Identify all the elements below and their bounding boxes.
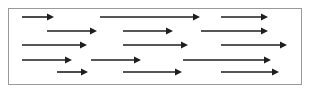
arrow-right-icon: [123, 42, 188, 49]
arrow-field: [0, 0, 312, 88]
arrow-right-icon: [221, 42, 287, 49]
arrow-right-icon: [201, 28, 268, 35]
arrow-right-icon: [91, 57, 141, 64]
arrow-right-icon: [221, 14, 268, 21]
arrow-right-icon: [221, 69, 279, 76]
arrow-right-icon: [22, 14, 54, 21]
arrow-right-icon: [123, 28, 173, 35]
arrow-right-icon: [100, 14, 200, 21]
arrow-right-icon: [47, 28, 97, 35]
arrow-right-icon: [57, 69, 88, 76]
arrow-right-icon: [123, 69, 182, 76]
arrow-right-icon: [183, 57, 271, 64]
arrow-right-icon: [22, 42, 87, 49]
arrow-right-icon: [22, 57, 72, 64]
